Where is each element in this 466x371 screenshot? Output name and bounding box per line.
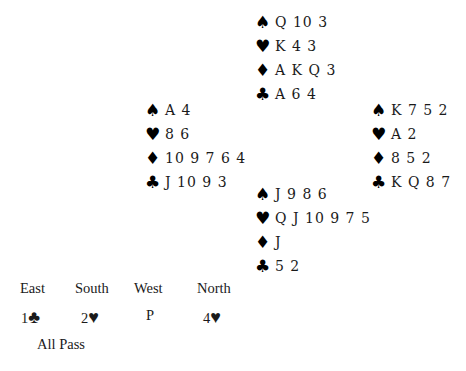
club-icon: ♣ [255,82,275,106]
north-diamonds-row: ♦ A K Q 3 [255,58,336,82]
auction-header-south: South [75,280,109,297]
north-clubs-row: ♣ A 6 4 [255,82,336,106]
north-hearts-row: ♥ K 4 3 [255,34,336,58]
south-diamonds-row: ♦ J [255,230,371,254]
spade-icon: ♠ [371,98,391,122]
west-spades-row: ♠ A 4 [145,98,246,122]
east-diamonds-row: ♦ 8 5 2 [371,146,451,170]
auction-header-west: West [134,280,163,297]
east-diamonds: 8 5 2 [391,146,432,170]
club-icon: ♣ [28,307,40,327]
east-clubs: K Q 8 7 [391,170,451,194]
spade-icon: ♠ [255,10,275,34]
east-spades-row: ♠ K 7 5 2 [371,98,451,122]
auction-header-east: East [20,280,45,297]
diamond-icon: ♦ [145,146,165,170]
east-hand: ♠ K 7 5 2 ♥ A 2 ♦ 8 5 2 ♣ K Q 8 7 [371,98,451,194]
south-clubs: 5 2 [275,254,300,278]
south-spades-row: ♠ J 9 8 6 [255,182,371,206]
north-spades-row: ♠ Q 10 3 [255,10,336,34]
east-hearts-row: ♥ A 2 [371,122,451,146]
north-diamonds: A K Q 3 [275,58,336,82]
bid-east: 1♣ [21,307,40,328]
west-diamonds: 10 9 7 6 4 [165,146,246,170]
west-diamonds-row: ♦ 10 9 7 6 4 [145,146,246,170]
diamond-icon: ♦ [371,146,391,170]
north-spades: Q 10 3 [275,10,328,34]
south-hearts-row: ♥ Q J 10 9 7 5 [255,206,371,230]
heart-icon: ♥ [255,206,275,230]
south-hand: ♠ J 9 8 6 ♥ Q J 10 9 7 5 ♦ J ♣ 5 2 [255,182,371,278]
heart-icon: ♥ [88,307,99,327]
auction-header-north: North [197,280,231,297]
east-spades: K 7 5 2 [391,98,449,122]
diamond-icon: ♦ [255,58,275,82]
heart-icon: ♥ [255,34,275,58]
west-clubs: J 10 9 3 [165,170,228,194]
auction-final: All Pass [37,336,85,353]
diamond-icon: ♦ [255,230,275,254]
spade-icon: ♠ [145,98,165,122]
north-clubs: A 6 4 [275,82,317,106]
bid-level: P [146,307,154,323]
heart-icon: ♥ [371,122,391,146]
bid-west: P [146,307,154,324]
north-hand: ♠ Q 10 3 ♥ K 4 3 ♦ A K Q 3 ♣ A 6 4 [255,10,336,106]
north-hearts: K 4 3 [275,34,317,58]
west-spades: A 4 [165,98,191,122]
club-icon: ♣ [371,170,391,194]
club-icon: ♣ [255,254,275,278]
south-diamonds: J [275,230,282,254]
bid-north: 4♥ [203,307,221,328]
west-hearts-row: ♥ 8 6 [145,122,246,146]
south-hearts: Q J 10 9 7 5 [275,206,371,230]
club-icon: ♣ [145,170,165,194]
east-hearts: A 2 [391,122,417,146]
west-clubs-row: ♣ J 10 9 3 [145,170,246,194]
bid-south: 2♥ [81,307,99,328]
south-clubs-row: ♣ 5 2 [255,254,371,278]
west-hearts: 8 6 [165,122,190,146]
west-hand: ♠ A 4 ♥ 8 6 ♦ 10 9 7 6 4 ♣ J 10 9 3 [145,98,246,194]
heart-icon: ♥ [210,307,221,327]
south-spades: J 9 8 6 [275,182,328,206]
spade-icon: ♠ [255,182,275,206]
east-clubs-row: ♣ K Q 8 7 [371,170,451,194]
heart-icon: ♥ [145,122,165,146]
